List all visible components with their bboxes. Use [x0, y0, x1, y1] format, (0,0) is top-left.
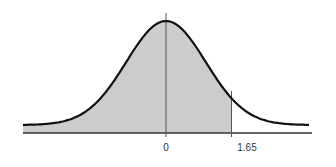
tick-label-critical: 1.65	[237, 142, 257, 153]
normal-distribution-chart: 0 1.65	[0, 0, 336, 167]
shaded-area	[23, 21, 232, 133]
tick-label-zero: 0	[163, 142, 169, 153]
